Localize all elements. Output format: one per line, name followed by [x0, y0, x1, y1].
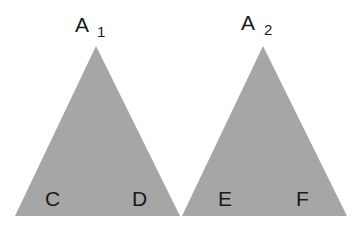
leaf-label-e: E: [218, 188, 232, 209]
leaf-label-d: D: [132, 188, 147, 209]
tree-triangle-1: [15, 46, 180, 216]
leaf-label-c: C: [45, 188, 60, 209]
root-subscript-2: 2: [264, 22, 272, 37]
tree-triangle-2: [182, 46, 347, 216]
root-label-2: A: [241, 12, 255, 33]
root-label-1: A: [75, 14, 89, 35]
leaf-label-f: F: [296, 188, 309, 209]
root-subscript-1: 1: [97, 24, 105, 39]
